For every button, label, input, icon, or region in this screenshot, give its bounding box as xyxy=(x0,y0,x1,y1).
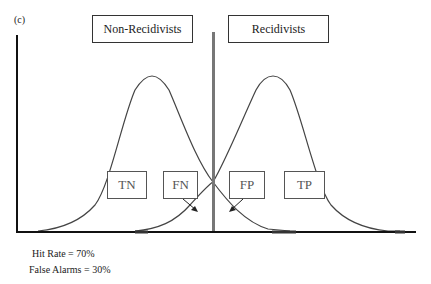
false-alarms-text: False Alarms = 30% xyxy=(29,264,110,275)
recidivist-distribution-curve xyxy=(135,76,400,231)
signal-detection-diagram xyxy=(0,0,431,284)
true-negative-box: TN xyxy=(107,171,147,199)
fn-label: FN xyxy=(172,177,189,193)
hit-rate-text: Hit Rate = 70% xyxy=(32,248,95,259)
tn-label: TN xyxy=(118,177,135,193)
true-positive-box: TP xyxy=(284,171,325,199)
tp-label: TP xyxy=(297,177,312,193)
false-negative-box: FN xyxy=(163,171,198,199)
fp-label: FP xyxy=(240,177,254,193)
false-positive-box: FP xyxy=(229,171,265,199)
